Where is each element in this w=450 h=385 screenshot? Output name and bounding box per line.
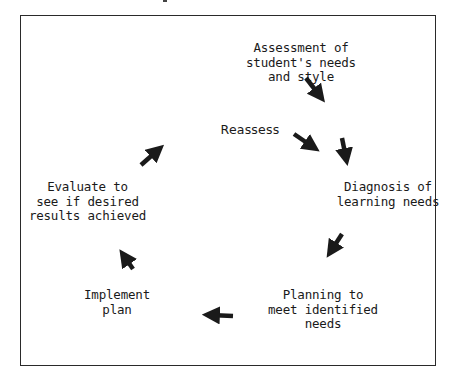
node-planning: Planning to meet identified needs	[258, 288, 388, 332]
node-evaluate: Evaluate to see if desired results achie…	[20, 180, 155, 224]
node-assessment: Assessment of student's needs and style	[226, 41, 376, 85]
node-implement: Implement plan	[62, 288, 172, 317]
scan-artifact	[163, 0, 167, 2]
node-diagnosis: Diagnosis of learning needs	[323, 180, 450, 209]
node-reassess: Reassess	[200, 123, 300, 138]
